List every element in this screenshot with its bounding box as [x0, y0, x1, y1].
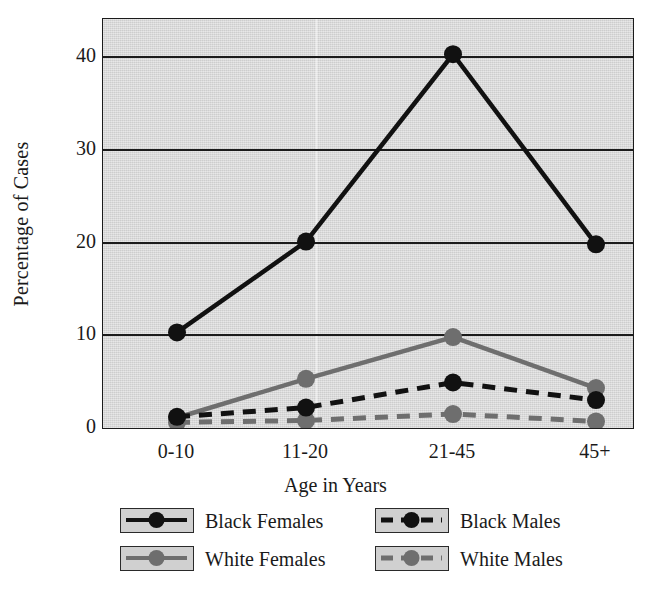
- data-point-marker: [587, 235, 605, 253]
- legend-label: Black Males: [460, 511, 561, 531]
- chart-legend: Black FemalesWhite FemalesBlack MalesWhi…: [120, 508, 580, 584]
- data-point-marker: [168, 323, 186, 341]
- y-axis-title: Percentage of Cases: [10, 141, 33, 306]
- legend-item: White Males: [375, 546, 563, 571]
- plot-area: [102, 18, 634, 429]
- legend-swatch: [120, 508, 194, 533]
- data-point-marker: [168, 408, 186, 426]
- data-point-marker: [444, 45, 462, 63]
- y-axis-tick-label: 10: [50, 323, 96, 343]
- data-point-marker: [297, 399, 315, 417]
- data-point-marker: [297, 370, 315, 388]
- data-point-marker: [444, 328, 462, 346]
- y-axis-tick-label: 40: [50, 45, 96, 65]
- legend-label: White Females: [205, 549, 326, 569]
- legend-swatch: [375, 508, 449, 533]
- series-line: [177, 337, 596, 418]
- y-axis-title-wrapper: Percentage of Cases: [0, 18, 42, 429]
- data-point-marker: [444, 405, 462, 423]
- legend-label: White Males: [460, 549, 563, 569]
- legend-item: White Females: [120, 546, 326, 571]
- legend-item: Black Males: [375, 508, 561, 533]
- x-axis-tick-label: 45+: [579, 441, 610, 461]
- x-axis-tick-label: 11-20: [282, 441, 328, 461]
- legend-swatch: [375, 546, 449, 571]
- data-point-marker: [297, 233, 315, 251]
- series-line: [177, 414, 596, 422]
- series-line: [177, 54, 596, 332]
- y-axis-tick-label: 30: [50, 138, 96, 158]
- y-axis-tick-label: 0: [50, 416, 96, 436]
- x-axis-tick-label: 21-45: [429, 441, 476, 461]
- x-axis-title: Age in Years: [0, 474, 671, 497]
- data-point-marker: [587, 391, 605, 409]
- legend-item: Black Females: [120, 508, 323, 533]
- y-axis-tick-label: 20: [50, 231, 96, 251]
- data-point-marker: [444, 373, 462, 391]
- legend-label: Black Females: [205, 511, 323, 531]
- chart-container: Percentage of Cases 010203040 0-1011-202…: [0, 0, 671, 597]
- x-axis-tick-label: 0-10: [158, 441, 195, 461]
- data-point-marker: [587, 412, 605, 429]
- legend-swatch: [120, 546, 194, 571]
- series-lines: [103, 19, 632, 427]
- y-axis-tick-labels: 010203040: [46, 0, 96, 597]
